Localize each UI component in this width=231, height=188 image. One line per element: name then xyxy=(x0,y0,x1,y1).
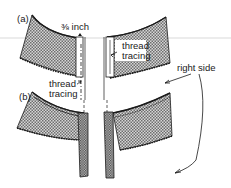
thread-tracing-left-label-line2: tracing xyxy=(48,89,79,99)
sewing-diagram xyxy=(0,0,231,188)
panel-b-label: (b) xyxy=(19,92,31,102)
seam-allowance-label: ⅜ inch xyxy=(61,22,89,32)
thread-tracing-right-label-line2: tracing xyxy=(122,51,151,61)
panel-a-label: (a) xyxy=(17,14,29,24)
panel-b-right-fabric xyxy=(104,93,172,178)
right-side-label: right side xyxy=(177,63,216,73)
panel-b-left-fabric xyxy=(17,92,88,177)
